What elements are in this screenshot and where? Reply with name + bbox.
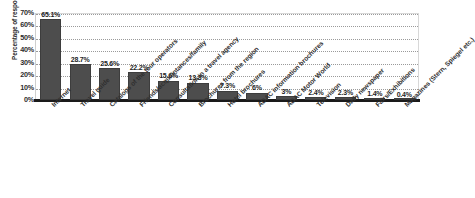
y-tick-label: 20% <box>0 70 34 79</box>
bar-value-label: 25.6% <box>100 60 119 67</box>
bar <box>40 19 61 100</box>
bar-value-label: 28.7% <box>71 56 90 63</box>
y-tick-label: 10% <box>0 83 34 92</box>
y-tick-label: 50% <box>0 33 34 42</box>
bar-item: 65.1% <box>36 13 65 100</box>
y-axis-ticks: 70%60%50%40%30%20%10%0% <box>0 0 34 198</box>
bar-value-label: 65.1% <box>41 11 60 18</box>
bar-value-label: 2.4% <box>308 89 323 96</box>
y-tick-label: 0% <box>0 95 34 104</box>
y-tick-label: 60% <box>0 20 34 29</box>
x-axis-ticks: InternetTravel guideCatalogs of the tour… <box>36 103 419 198</box>
y-tick-label: 40% <box>0 45 34 54</box>
y-tick-label: 70% <box>0 8 34 17</box>
bar-value-label: 3% <box>282 88 292 95</box>
y-tick-label: 30% <box>0 58 34 67</box>
bar-item: 28.7% <box>65 13 94 100</box>
